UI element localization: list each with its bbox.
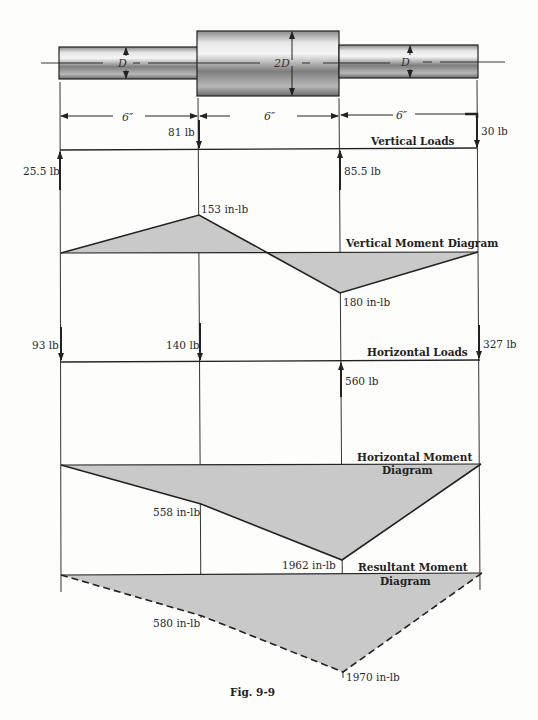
load-label: 560 lb: [345, 375, 379, 387]
vertical-loads: 25.5 lb 81 lb 85.5 lb 30 lb Vertical Loa…: [23, 118, 508, 190]
moment-label: 180 in-lb: [343, 296, 390, 308]
load-label: 81 lb: [168, 126, 195, 138]
span-1-label: 6″: [122, 111, 134, 124]
load-label: 85.5 lb: [344, 165, 381, 177]
load-label: 327 lb: [483, 338, 517, 350]
horizontal-loads: 93 lb 140 lb 560 lb 327 lb Horizontal Lo…: [32, 323, 517, 397]
moment-label: 558 in-lb: [153, 506, 200, 518]
horizontal-load-beam: [61, 360, 480, 362]
shaft-drawing: D 2D D: [41, 31, 505, 96]
moment-label: 1962 in-lb: [282, 559, 336, 571]
right-diameter-label: D: [400, 56, 410, 69]
resultant-moment-title-line1: Resultant Moment: [358, 561, 468, 573]
load-label: 93 lb: [32, 339, 59, 351]
load-label: 140 lb: [166, 339, 200, 351]
resultant-moment-title-line2: Diagram: [380, 575, 431, 587]
middle-diameter-label: 2D: [273, 57, 290, 70]
horizontal-moment-title-line2: Diagram: [382, 464, 433, 476]
resultant-moment-diagram: 580 in-lb 1970 in-lb Resultant Moment Di…: [61, 561, 482, 683]
span-3-label: 6″: [396, 109, 408, 122]
moment-label: 1970 in-lb: [346, 671, 400, 683]
left-diameter-label: D: [117, 57, 127, 70]
horizontal-moment-diagram: 558 in-lb 1962 in-lb Horizontal Moment D…: [61, 451, 481, 571]
middle-shaft-section: [197, 31, 339, 96]
load-label: 30 lb: [481, 125, 508, 137]
shaft-load-moment-figure: D 2D D 6″ 6″ 6″ 25.5 lb 81 lb 85.5 lb 30…: [0, 0, 538, 720]
vertical-moment-title: Vertical Moment Diagram: [345, 237, 498, 249]
vertical-loads-title: Vertical Loads: [370, 135, 455, 147]
vertical-load-beam: [60, 148, 477, 150]
moment-label: 153 in-lb: [201, 203, 248, 215]
span-2-label: 6″: [264, 110, 276, 123]
vertical-moment-diagram: 153 in-lb 180 in-lb Vertical Moment Diag…: [61, 203, 498, 308]
moment-label: 580 in-lb: [153, 617, 200, 629]
load-label: 25.5 lb: [23, 165, 60, 177]
horizontal-moment-title-line1: Horizontal Moment: [357, 451, 472, 463]
horizontal-loads-title: Horizontal Loads: [367, 346, 468, 358]
figure-caption: Fig. 9-9: [230, 686, 275, 698]
